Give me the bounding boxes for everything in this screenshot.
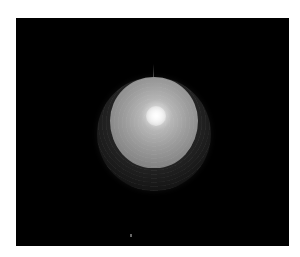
render-canvas <box>16 18 289 246</box>
top-marker <box>153 64 154 78</box>
specular-highlight <box>146 106 166 126</box>
bottom-marker <box>130 234 132 237</box>
